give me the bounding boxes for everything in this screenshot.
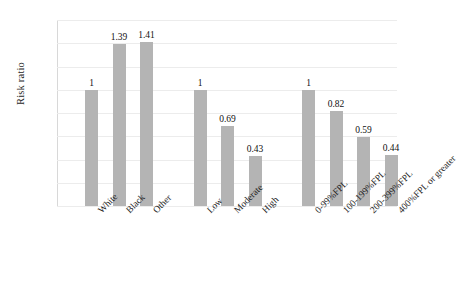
bar-slot: 0.82 (330, 20, 343, 206)
bar-value-label: 0.43 (237, 144, 274, 154)
y-axis-title: Risk ratio (15, 24, 26, 144)
bar-value-label: 1.41 (128, 30, 165, 40)
bar-value-label: 0.82 (318, 99, 355, 109)
bar-value-label: 1 (73, 78, 110, 88)
x-axis-labels: WhiteBlackOtherLowModerateHigh0-99%FPL10… (57, 208, 397, 282)
bar-value-label: 0.44 (373, 143, 410, 153)
bar-series: 11.391.4110.690.4310.820.590.44 (57, 20, 397, 206)
bar-slot: 1.41 (140, 20, 153, 206)
bar-slot: 1 (85, 20, 98, 206)
bar (221, 126, 234, 206)
bar-slot: 0.43 (249, 20, 262, 206)
bar-slot: 1 (194, 20, 207, 206)
bar-slot: 1 (302, 20, 315, 206)
plot-area: 11.391.4110.690.4310.820.590.44 (57, 20, 397, 206)
bar (85, 90, 98, 206)
bar-slot: 0.44 (385, 20, 398, 206)
bar-slot: 1.39 (113, 20, 126, 206)
bar-value-label: 0.69 (209, 114, 246, 124)
bar-slot: 0.59 (357, 20, 370, 206)
bar-value-label: 0.59 (345, 125, 382, 135)
bar-value-label: 1 (290, 78, 327, 88)
bar-value-label: 1 (182, 78, 219, 88)
bar (140, 42, 153, 206)
bar-slot: 0.69 (221, 20, 234, 206)
bar (113, 44, 126, 206)
bar (194, 90, 207, 206)
bar (302, 90, 315, 206)
